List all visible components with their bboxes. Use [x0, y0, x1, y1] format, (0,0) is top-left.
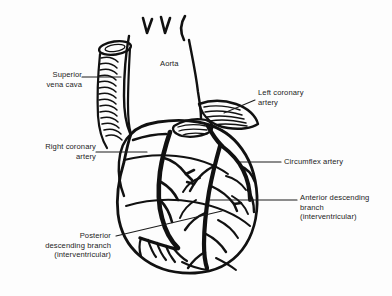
aortic-branch-vessels: [143, 16, 185, 40]
heart-anatomy-figure: Superior vena cava Aorta Left coronary a…: [0, 0, 392, 296]
right-coronary-branches: [160, 158, 194, 222]
label-circumflex-artery: Circumflex artery: [284, 157, 343, 167]
svc-ribbing: [99, 57, 122, 140]
right-coronary-artery: [159, 132, 178, 248]
aorta-outline: [124, 36, 201, 133]
label-posterior-descending-branch: Posterior descending branch (interventri…: [45, 231, 111, 260]
atrial-flap-secondary-striations: [178, 125, 207, 135]
label-superior-vena-cava: Superior vena cava: [46, 70, 82, 89]
ventricular-mass-outline: [117, 121, 257, 274]
label-aorta: Aorta: [160, 59, 179, 69]
label-right-coronary-artery: Right coronary artery: [45, 142, 96, 161]
chamber-division-lines: [124, 155, 250, 226]
label-anterior-descending-branch: Anterior descending branch (interventric…: [300, 193, 369, 222]
label-left-coronary-artery: Left coronary artery: [258, 88, 304, 107]
